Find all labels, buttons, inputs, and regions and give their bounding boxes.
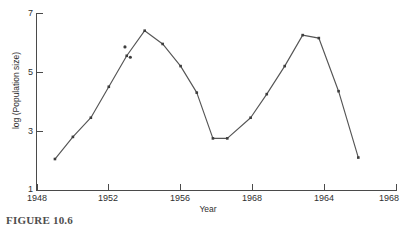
x-tick-label-1956: 1956: [160, 193, 200, 203]
data-point-marker: [90, 116, 93, 119]
x-axis-spine: [36, 190, 396, 191]
data-point-marker: [337, 90, 340, 93]
x-tick-label-1964: 1964: [304, 193, 344, 203]
data-series-plot: [37, 13, 396, 190]
data-point-marker: [161, 43, 164, 46]
data-point-marker: [195, 91, 198, 94]
data-point-marker: [357, 156, 360, 159]
data-point-marker: [179, 65, 182, 68]
data-point-marker: [301, 34, 304, 37]
x-tick-label-1960: 1968: [232, 193, 272, 203]
outlier-point-marker: [123, 45, 126, 48]
y-axis-title: log (Population size): [12, 21, 21, 161]
y-tick-label-7: 7: [0, 9, 33, 18]
x-tick-mark-1968: [396, 184, 397, 191]
data-point-marker: [249, 116, 252, 119]
x-tick-label-1968: 1968: [369, 193, 409, 203]
figure-container: 7 5 3 1 1948 1952 1956 1968 1964 1968 lo…: [0, 0, 416, 226]
x-axis-title: Year: [0, 204, 416, 214]
data-point-marker: [54, 158, 57, 161]
data-point-marker: [72, 136, 75, 139]
figure-caption: FIGURE 10.6: [6, 214, 73, 226]
data-point-marker: [265, 93, 268, 96]
data-point-marker: [108, 85, 111, 88]
data-point-marker: [226, 137, 229, 140]
data-point-marker: [125, 54, 128, 57]
plot-area: [37, 13, 396, 190]
data-point-marker: [283, 65, 286, 68]
x-tick-label-1952: 1952: [88, 193, 128, 203]
x-tick-label-1948: 1948: [17, 193, 57, 203]
data-line: [55, 31, 358, 159]
data-point-marker: [212, 137, 215, 140]
data-point-marker: [318, 37, 321, 40]
outlier-point-marker: [129, 56, 132, 59]
data-point-marker: [143, 29, 146, 32]
